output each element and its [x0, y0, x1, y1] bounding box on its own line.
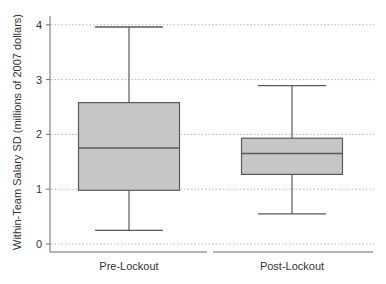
- boxes: [79, 27, 343, 230]
- x-category-label-1: Post-Lockout: [260, 260, 324, 272]
- box-pre-lockout: [79, 27, 180, 230]
- y-tick-label-0: 0: [36, 238, 42, 250]
- y-tick-label-3: 3: [36, 74, 42, 86]
- box-plot: 01234Pre-LockoutPost-LockoutWithin-Team …: [0, 0, 386, 284]
- y-tick-label-2: 2: [36, 128, 42, 140]
- y-axis-title: Within-Team Salary SD (millions of 2007 …: [11, 14, 23, 250]
- box-post-lockout: [242, 86, 343, 214]
- iqr-box: [242, 138, 343, 174]
- y-tick-label-4: 4: [36, 19, 42, 31]
- x-category-label-0: Pre-Lockout: [99, 260, 158, 272]
- iqr-box: [79, 103, 180, 191]
- y-tick-label-1: 1: [36, 183, 42, 195]
